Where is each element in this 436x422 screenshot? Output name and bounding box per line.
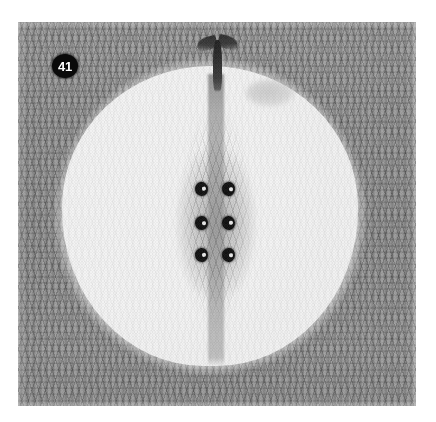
image-plate: 41 <box>18 22 416 406</box>
figure-root: 41 <box>0 0 436 422</box>
figure-number-badge: 41 <box>52 54 78 78</box>
figure-number-label: 41 <box>58 60 72 73</box>
apple-flesh <box>62 66 358 366</box>
